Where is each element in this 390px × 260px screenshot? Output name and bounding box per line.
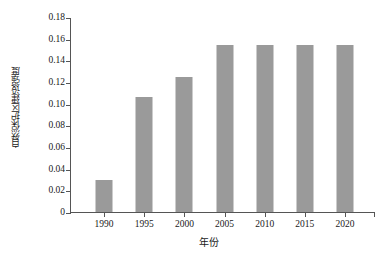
y-tick-label: 0.08 bbox=[48, 120, 65, 130]
y-tick-mark bbox=[66, 148, 71, 149]
y-tick-mark bbox=[66, 170, 71, 171]
x-tick-mark bbox=[144, 212, 145, 217]
y-axis-title: 自然保护区建设强度 bbox=[6, 0, 24, 216]
y-tick-label: 0.18 bbox=[48, 12, 65, 22]
x-tick-label: 2020 bbox=[335, 219, 354, 229]
y-tick-label: 0.14 bbox=[48, 55, 65, 65]
y-tick-mark bbox=[66, 105, 71, 106]
bar bbox=[96, 180, 113, 213]
y-tick-label: 0 bbox=[60, 207, 65, 217]
bar bbox=[256, 45, 273, 212]
x-axis-line bbox=[70, 212, 375, 213]
x-axis-title: 年份 bbox=[0, 234, 390, 249]
x-tick-mark bbox=[345, 212, 346, 217]
x-tick-label: 2010 bbox=[255, 219, 274, 229]
y-tick-mark bbox=[66, 191, 71, 192]
plot-area: 00.020.040.060.080.100.120.140.160.18 19… bbox=[70, 18, 375, 213]
y-tick-label: 0.02 bbox=[48, 185, 65, 195]
bar bbox=[296, 45, 313, 212]
x-tick-label: 2000 bbox=[175, 219, 194, 229]
y-tick-mark bbox=[66, 40, 71, 41]
y-tick-label: 0.10 bbox=[48, 99, 65, 109]
x-tick-mark bbox=[184, 212, 185, 217]
y-tick-mark bbox=[66, 126, 71, 127]
x-tick-label: 2005 bbox=[215, 219, 234, 229]
y-tick-label: 0.12 bbox=[48, 77, 65, 87]
bar bbox=[136, 97, 153, 212]
x-tick-mark-end bbox=[374, 212, 375, 217]
x-tick-mark bbox=[305, 212, 306, 217]
y-tick-mark bbox=[66, 213, 71, 214]
x-tick-label: 1995 bbox=[135, 219, 154, 229]
x-tick-label: 1990 bbox=[95, 219, 114, 229]
x-tick-mark bbox=[265, 212, 266, 217]
y-tick-label: 0.16 bbox=[48, 34, 65, 44]
x-tick-mark bbox=[104, 212, 105, 217]
x-axis-title-text: 年份 bbox=[199, 234, 219, 249]
y-tick-mark bbox=[66, 18, 71, 19]
x-tick-label: 2015 bbox=[295, 219, 314, 229]
y-tick-mark bbox=[66, 61, 71, 62]
y-tick-mark bbox=[66, 83, 71, 84]
y-tick-label: 0.04 bbox=[48, 164, 65, 174]
bar-chart: 自然保护区建设强度 00.020.040.060.080.100.120.140… bbox=[0, 0, 390, 260]
y-tick-label: 0.06 bbox=[48, 142, 65, 152]
bar bbox=[216, 45, 233, 212]
y-axis-line bbox=[70, 18, 71, 213]
bar bbox=[336, 45, 353, 212]
x-tick-mark bbox=[225, 212, 226, 217]
bar bbox=[176, 77, 193, 212]
